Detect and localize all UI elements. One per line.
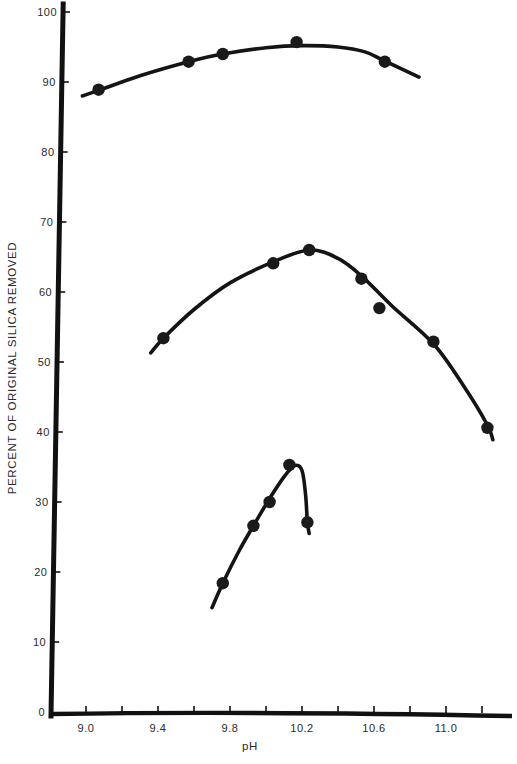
y-tick-label: 0	[38, 706, 45, 718]
x-tick-label: 9.4	[150, 722, 167, 734]
data-points	[92, 36, 493, 590]
data-point	[157, 332, 169, 344]
chart: 01020304050607080901009.09.49.810.210.61…	[0, 0, 517, 764]
y-tick-label: 80	[41, 146, 54, 158]
data-point	[217, 577, 229, 589]
x-tick-label: 9.8	[222, 722, 239, 734]
y-tick-label: 30	[35, 496, 48, 508]
y-tick-label: 90	[43, 76, 56, 88]
y-tick-label: 10	[33, 636, 46, 648]
x-axis-label: pH	[242, 740, 258, 752]
data-point	[92, 84, 104, 96]
data-point	[379, 56, 391, 68]
y-tick-label: 70	[40, 216, 53, 228]
data-point	[290, 36, 302, 48]
data-point	[217, 48, 229, 60]
data-point	[373, 302, 385, 314]
data-point	[283, 459, 295, 471]
y-tick-label: 100	[37, 6, 57, 18]
data-point	[247, 520, 259, 532]
data-point	[182, 56, 194, 68]
fit-curve-1	[82, 46, 419, 96]
y-tick-label: 60	[39, 286, 52, 298]
data-point	[427, 336, 439, 348]
data-point	[303, 244, 315, 256]
data-point	[355, 273, 367, 285]
x-axis-line	[51, 713, 512, 716]
y-tick-label: 20	[34, 566, 47, 578]
y-axis-line	[51, 4, 63, 716]
y-tick-label: 40	[37, 426, 50, 438]
ticks: 01020304050607080901009.09.49.810.210.61…	[33, 6, 482, 734]
data-point	[301, 516, 313, 528]
x-tick-label: 10.6	[362, 722, 385, 734]
x-tick-label: 9.0	[78, 722, 95, 734]
data-point	[481, 422, 493, 434]
data-point	[267, 257, 279, 269]
fit-curve-2	[151, 250, 493, 440]
axes	[51, 4, 512, 716]
y-axis-label: PERCENT OF ORIGINAL SILICA REMOVED	[6, 242, 18, 494]
data-point	[263, 496, 275, 508]
y-tick-label: 50	[38, 356, 51, 368]
x-tick-label: 10.2	[290, 722, 313, 734]
fit-curves	[82, 46, 492, 608]
x-tick-label: 11.0	[435, 722, 458, 734]
